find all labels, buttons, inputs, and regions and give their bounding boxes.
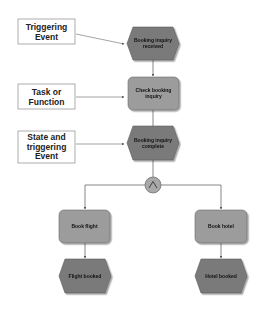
svg-text:Triggering: Triggering <box>26 22 68 32</box>
event-hotel-booked: Hotel booked <box>195 259 247 293</box>
svg-text:Hotel booked: Hotel booked <box>205 273 237 279</box>
svg-text:Book hotel: Book hotel <box>208 223 234 229</box>
node-label: Flight booked <box>69 273 102 279</box>
svg-text:Task or: Task or <box>32 87 62 97</box>
svg-text:Event: Event <box>35 32 58 42</box>
svg-text:Function: Function <box>29 97 65 107</box>
epc-diagram: Triggering Event Task or Function State … <box>0 0 263 317</box>
svg-text:received: received <box>143 43 163 49</box>
split-line-left <box>85 185 145 209</box>
legend-line: Triggering <box>26 22 68 32</box>
legend-pointer-line <box>76 34 124 44</box>
legend-state-triggering-event: State and triggering Event <box>18 131 75 163</box>
node-label: Book flight <box>71 223 97 229</box>
legend-line: Event <box>35 32 58 42</box>
legend-line: Function <box>29 97 65 107</box>
legend-task-or-function: Task or Function <box>18 84 75 109</box>
svg-text:complete: complete <box>142 143 164 149</box>
svg-text:Event: Event <box>35 151 58 161</box>
and-connector <box>145 177 161 193</box>
event-booking-inquiry-received: Booking inquiry received <box>127 27 179 60</box>
legend-triggering-event: Triggering Event <box>18 19 75 44</box>
split-line-right <box>161 185 221 209</box>
legend-line: Event <box>35 151 58 161</box>
legend-line: triggering <box>27 142 67 152</box>
function-book-hotel: Book hotel <box>195 210 247 243</box>
event-flight-booked: Flight booked <box>59 259 111 293</box>
svg-text:Flight booked: Flight booked <box>69 273 102 279</box>
svg-text:triggering: triggering <box>27 142 67 152</box>
node-label: inquiry <box>145 93 162 99</box>
function-book-flight: Book flight <box>59 210 110 243</box>
svg-text:State and: State and <box>27 132 65 142</box>
node-label: Hotel booked <box>205 273 237 279</box>
svg-text:inquiry: inquiry <box>145 93 162 99</box>
legend-line: Task or <box>32 87 62 97</box>
svg-text:Book flight: Book flight <box>71 223 97 229</box>
node-label: Book hotel <box>208 223 234 229</box>
function-check-booking-inquiry: Check booking inquiry <box>128 77 179 110</box>
legend-line: State and <box>27 132 65 142</box>
event-booking-inquiry-complete: Booking inquiry complete <box>127 126 179 160</box>
node-label: received <box>143 43 163 49</box>
node-label: complete <box>142 143 164 149</box>
